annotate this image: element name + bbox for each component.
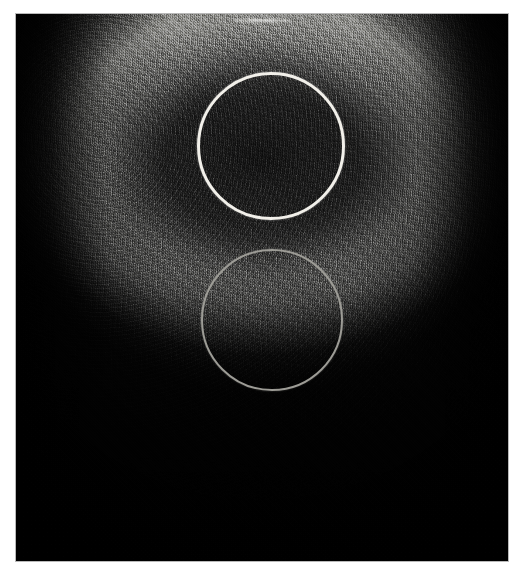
- apex-specular-highlight: [214, 18, 310, 23]
- figure-caption-strip: clipped caption line at lower page margi…: [12, 563, 512, 579]
- roi-circle-upper[interactable]: [197, 72, 345, 220]
- ultrasound-scan-image[interactable]: [16, 14, 508, 561]
- roi-circle-lower[interactable]: [201, 249, 343, 391]
- figure-root: clipped caption line at lower page margi…: [0, 0, 524, 579]
